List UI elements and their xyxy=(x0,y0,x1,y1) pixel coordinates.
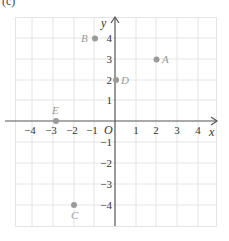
point-b-label: B xyxy=(81,32,88,44)
axes xyxy=(5,17,217,226)
point-d-marker xyxy=(113,77,119,83)
x-tick-labels: −4 −3 −2 −1 1 2 3 4 xyxy=(24,124,201,136)
point-d-label: D xyxy=(120,74,129,86)
point-e-label: E xyxy=(51,104,59,116)
y-axis-label: y xyxy=(100,16,107,30)
x-tick-label: 4 xyxy=(195,124,201,136)
point-e-marker xyxy=(53,118,59,124)
point-c-marker xyxy=(71,202,77,208)
point-a-label: A xyxy=(161,53,169,65)
y-tick-label: 1 xyxy=(107,94,113,106)
x-tick-label: 3 xyxy=(174,124,180,136)
origin-label: O xyxy=(104,123,113,137)
x-tick-label: −1 xyxy=(86,124,98,136)
y-tick-label: 2 xyxy=(107,74,113,86)
y-tick-label: −1 xyxy=(100,136,112,148)
y-tick-label: 4 xyxy=(107,32,113,44)
x-tick-label: −2 xyxy=(66,124,78,136)
point-c-label: C xyxy=(71,209,79,221)
y-tick-label: −3 xyxy=(100,178,112,190)
x-tick-label: 2 xyxy=(153,124,159,136)
y-tick-label: 3 xyxy=(107,53,113,65)
y-tick-label: −4 xyxy=(100,199,112,211)
point-b-marker xyxy=(92,36,98,42)
x-tick-label: −3 xyxy=(45,124,57,136)
grid xyxy=(16,18,217,227)
panel-label: (c) xyxy=(2,0,15,8)
point-a-marker xyxy=(154,57,160,63)
coordinate-plane: (c) x y O −4 −3 −2 −1 1 2 3 4 xyxy=(0,0,229,241)
y-tick-label: −2 xyxy=(100,157,112,169)
x-tick-label: 1 xyxy=(133,124,139,136)
grid-border xyxy=(16,18,217,227)
x-tick-label: −4 xyxy=(24,124,36,136)
x-axis-label: x xyxy=(208,125,215,139)
